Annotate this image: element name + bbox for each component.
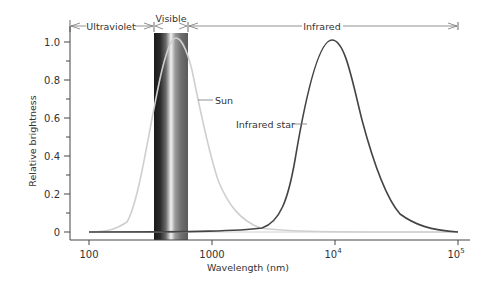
y-axis (64, 26, 70, 240)
x-axis (70, 240, 470, 245)
spectrum-chart: 1.0 0.8 0.6 0.4 0.2 0 100 1000 104 105 W… (0, 0, 497, 289)
y-tick-label: 0.8 (44, 75, 60, 86)
infrared-star-label: Infrared star (236, 119, 295, 130)
y-tick-label: 0.4 (44, 151, 60, 162)
x-tick-label: 100 (79, 249, 98, 260)
y-tick-label: 1.0 (44, 37, 60, 48)
y-tick-label: 0.2 (44, 189, 60, 200)
region-label-ultraviolet: Ultraviolet (86, 21, 136, 32)
x-tick-label: 1000 (199, 249, 224, 260)
visible-band (154, 33, 188, 240)
x-tick-label: 104 (324, 247, 342, 260)
region-label-infrared: Infrared (303, 21, 340, 32)
y-tick-label: 0 (54, 227, 60, 238)
infrared-star-curve (89, 40, 458, 232)
sun-curve (89, 38, 458, 232)
x-tick-label: 105 (447, 247, 464, 260)
sun-label: Sun (215, 95, 233, 106)
y-tick-label: 0.6 (44, 113, 60, 124)
y-axis-title: Relative brightness (27, 95, 38, 186)
region-label-visible: Visible (155, 13, 186, 24)
x-axis-title: Wavelength (nm) (207, 262, 289, 273)
